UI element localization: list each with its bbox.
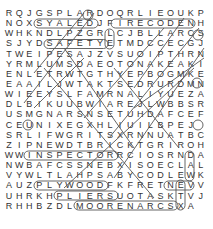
grid-letter [196,120,206,130]
grid-letter: V [4,170,14,180]
grid-letter: R [125,18,135,28]
grid-letter: H [196,140,206,150]
grid-letter: T [85,38,95,48]
grid-letter: S [95,109,105,119]
grid-letter: A [166,28,176,38]
grid-letter: S [54,89,64,99]
grid-letter: D [44,28,54,38]
grid-letter: P [135,69,145,79]
grid-letter: K [95,79,105,89]
grid-letter: I [125,160,135,170]
grid-letter: I [14,89,24,99]
grid-letter: A [85,59,95,69]
grid-letter: R [196,99,206,109]
grid-letter: O [95,201,105,211]
grid-letter: L [54,170,64,180]
grid-letter: M [95,89,105,99]
grid-letter: P [24,140,34,150]
grid-letter: N [85,109,95,119]
grid-letter: K [155,59,165,69]
grid-letter: E [54,49,64,59]
grid-letter: N [166,180,176,190]
grid-letter: E [34,89,44,99]
grid-letter: C [176,38,186,48]
grid-letter: W [186,170,196,180]
grid-letter: M [75,201,85,211]
grid-letter: E [176,170,186,180]
grid-letter: S [135,160,145,170]
grid-letter: M [176,69,186,79]
grid-letter: J [24,8,34,18]
grid-letter: T [115,109,125,119]
grid-letter: J [85,49,95,59]
grid-letter: L [65,201,75,211]
grid-letter: O [125,191,135,201]
grid-letter: B [186,130,196,140]
grid-letter: P [196,8,206,18]
grid-letter: F [44,160,54,170]
grid-letter: P [65,28,75,38]
grid-letter: Z [4,140,14,150]
grid-letter: T [155,180,165,190]
grid-letter: Z [44,201,54,211]
grid-letter: Y [125,170,135,180]
grid-letter: L [65,89,75,99]
grid-letter: W [65,180,75,190]
grid-letter: N [145,130,155,140]
grid-letter: E [176,89,186,99]
grid-letter: T [135,191,145,201]
grid-letter: O [186,140,196,150]
grid-letter: I [105,140,115,150]
grid-letter: T [44,69,54,79]
grid-letter: K [115,180,125,190]
grid-letter: R [135,180,145,190]
grid-letter: L [24,69,34,79]
grid-letter: Q [115,8,125,18]
grid-letter: I [95,99,105,109]
grid-letter: O [145,170,155,180]
grid-letter: R [105,201,115,211]
grid-letter: E [196,69,206,79]
grid-letter: N [44,109,54,119]
grid-letter: M [54,59,64,69]
grid-letter: U [166,89,176,99]
grid-letter: R [125,8,135,18]
grid-letter: E [4,79,14,89]
grid-letter: B [135,28,145,38]
grid-letter: R [95,191,105,201]
grid-letter: Y [115,69,125,79]
grid-letter: E [115,201,125,211]
grid-letter: A [34,160,44,170]
grid-letter: B [34,201,44,211]
grid-letter: I [145,89,155,99]
grid-letter: B [166,99,176,109]
grid-letter: K [125,140,135,150]
grid-letter: T [115,38,125,48]
grid-letter: L [34,170,44,180]
grid-letter: P [166,120,176,130]
grid-letter: F [125,180,135,190]
grid-letter: P [54,8,64,18]
grid-letter: R [54,69,64,79]
grid-letter: R [115,99,125,109]
grid-letter: C [135,170,145,180]
grid-letter: T [166,49,176,59]
grid-letter: T [105,79,115,89]
grid-letter: N [34,120,44,130]
grid-letter: F [65,38,75,48]
grid-letter: G [145,140,155,150]
grid-letter: U [155,130,165,140]
grid-letter: P [54,150,64,160]
grid-letter: O [105,59,115,69]
grid-letter: F [44,130,54,140]
grid-letter: E [166,38,176,48]
grid-letter: A [166,130,176,140]
grid-letter: D [65,140,75,150]
grid-letter: R [166,79,176,89]
grid-letter: J [125,28,135,38]
grid-letter: E [135,18,145,28]
grid-letter: X [85,120,95,130]
grid-letter: B [105,160,115,170]
grid-letter: F [166,109,176,119]
grid-letter: Y [44,89,54,99]
